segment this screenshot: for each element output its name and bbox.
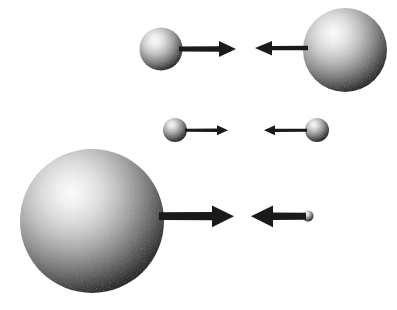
- row-3-group: [20, 149, 314, 293]
- row-2-right-arrow-left-icon: [264, 125, 307, 135]
- figure-canvas: [0, 0, 397, 310]
- row-2-left-arrow-right-icon: [185, 125, 228, 135]
- row-3-left-very-large-sphere: [20, 149, 164, 293]
- row-1-left-arrow-right-icon: [179, 41, 236, 57]
- row-1-right-arrow-left-icon: [255, 41, 308, 56]
- row-1-left-small-sphere: [140, 28, 183, 71]
- row-1-right-large-sphere: [303, 8, 387, 92]
- row-2-right-tiny-sphere: [305, 118, 329, 142]
- row-2-left-tiny-sphere: [163, 118, 187, 142]
- spheres-diagram: [0, 0, 397, 310]
- row-1-group: [140, 8, 388, 92]
- row-3-right-arrow-left-icon: [251, 206, 306, 228]
- row-3-left-arrow-right-icon: [159, 206, 234, 228]
- row-2-group: [163, 118, 329, 142]
